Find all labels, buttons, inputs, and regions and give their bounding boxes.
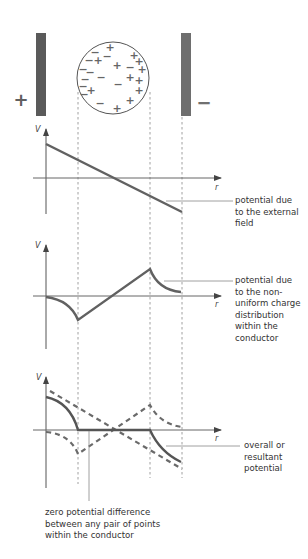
positive-charge: + bbox=[112, 59, 121, 72]
induced-potential-curve bbox=[46, 269, 181, 320]
negative-charge: − bbox=[113, 78, 122, 91]
negative-charge: − bbox=[102, 50, 111, 63]
positive-charge: + bbox=[125, 94, 134, 107]
v-axis-label: V bbox=[35, 241, 41, 250]
r-axis-label: r bbox=[215, 434, 219, 443]
positive-charge: + bbox=[125, 71, 134, 84]
v-axis-label: V bbox=[36, 373, 42, 382]
caption-induced-charge: potential due to the non- uniform charge… bbox=[235, 275, 301, 345]
negative-plate bbox=[181, 33, 191, 116]
positive-charge: + bbox=[112, 102, 121, 115]
caption-external-field: potential due to the external field bbox=[235, 195, 299, 230]
positive-charge: + bbox=[93, 54, 102, 67]
positive-plate bbox=[36, 33, 46, 116]
graph-external-field: V r bbox=[33, 125, 233, 214]
graph-resultant: V r bbox=[33, 373, 240, 501]
r-axis-label: r bbox=[215, 300, 219, 309]
zero-potential-difference-note: zero potential difference between any pa… bbox=[45, 507, 160, 542]
graph-induced-charge: V r bbox=[33, 241, 233, 349]
positive-sign: + bbox=[13, 89, 28, 110]
r-axis-label: r bbox=[215, 183, 219, 192]
negative-charge: − bbox=[79, 88, 88, 101]
negative-charge: − bbox=[95, 97, 104, 110]
caption-resultant: overall or resultant potential bbox=[244, 440, 285, 475]
v-axis-label: V bbox=[35, 125, 41, 134]
negative-charge: − bbox=[96, 71, 105, 84]
positive-charge: + bbox=[134, 84, 143, 97]
negative-sign: − bbox=[196, 92, 211, 113]
